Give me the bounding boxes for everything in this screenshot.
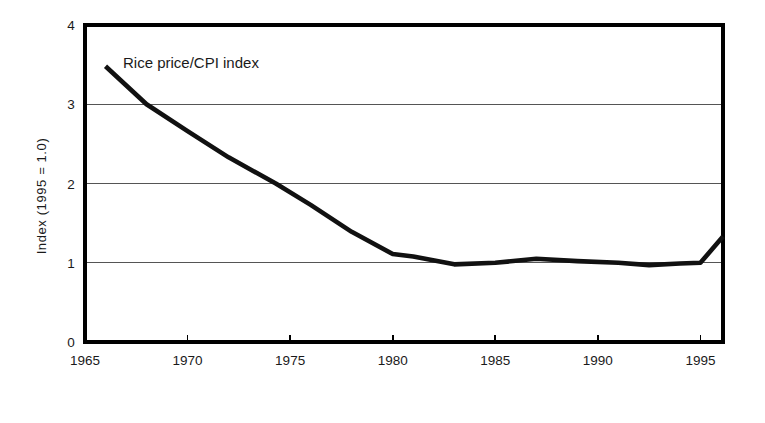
rice-price-cpi-line-chart: 1965197019751980198519901995 01234 Index…: [0, 0, 765, 423]
x-tick-label-1975: 1975: [275, 353, 305, 368]
x-tick-label-1990: 1990: [583, 353, 613, 368]
x-tick-label-1970: 1970: [173, 353, 203, 368]
x-tick-label-1995: 1995: [685, 353, 715, 368]
x-tick-label-1980: 1980: [378, 353, 408, 368]
series-annotation-label: Rice price/CPI index: [123, 54, 259, 71]
y-tick-label-4: 4: [67, 18, 75, 33]
y-tick-label-3: 3: [67, 97, 75, 112]
y-tick-label-2: 2: [67, 177, 75, 192]
y-axis-label: Index (1995 = 1.0): [34, 138, 49, 255]
y-tick-label-0: 0: [67, 335, 75, 350]
y-tick-label-1: 1: [67, 256, 75, 271]
x-tick-label-1965: 1965: [70, 353, 100, 368]
chart-figure: 1965197019751980198519901995 01234 Index…: [0, 0, 765, 423]
x-tick-label-1985: 1985: [480, 353, 510, 368]
